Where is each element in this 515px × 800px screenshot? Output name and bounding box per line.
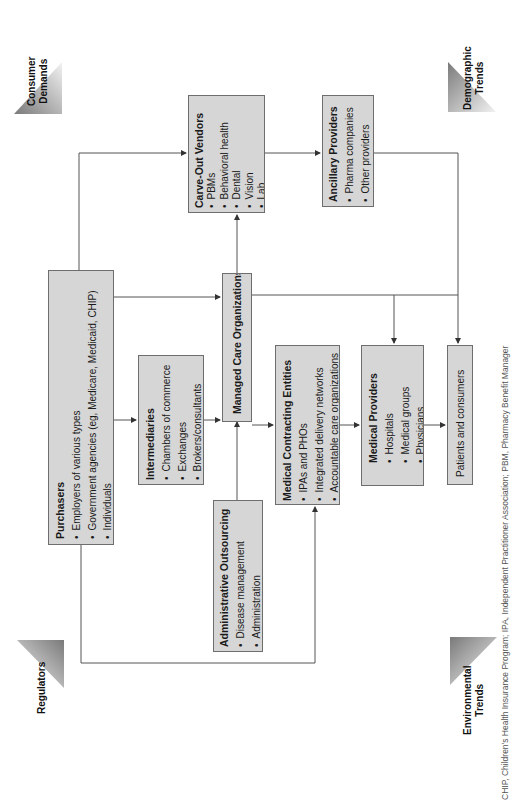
list-item: Other providers: [358, 106, 374, 202]
carve-out-title: Carve-Out Vendors: [193, 113, 206, 208]
list-item: Behavioral health: [219, 113, 232, 208]
list-item: Medical groups: [398, 373, 414, 463]
intermediaries-title: Intermediaries: [144, 365, 157, 480]
list-item: Hospitals: [382, 373, 398, 463]
list-item: PBMs: [206, 113, 219, 208]
purchasers-box: Purchasers Employers of various types Go…: [48, 270, 114, 545]
list-item: Lab: [256, 113, 265, 208]
carve-out-vendors-box: Carve-Out Vendors PBMs Behavioral health…: [188, 95, 265, 213]
admin-outsourcing-title: Administrative Outsourcing: [218, 509, 231, 647]
patients-and-consumers-box: Patients and consumers: [447, 345, 473, 485]
list-item: Administration: [249, 509, 264, 647]
list-item: Dental: [231, 113, 244, 208]
list-item: Brokers/consultants: [190, 365, 204, 480]
regulators-label: Regulators: [36, 662, 48, 714]
ancillary-title: Ancillary Providers: [327, 106, 340, 202]
list-item: Integrated delivery networks: [312, 353, 328, 501]
ancillary-providers-box: Ancillary Providers Pharma companies Oth…: [322, 95, 374, 207]
list-item: Exchanges: [175, 365, 191, 480]
list-item: Physicians: [413, 373, 424, 463]
medical-contracting-title: Medical Contracting Entities: [281, 353, 294, 501]
list-item: Accountable care organizations: [327, 353, 340, 501]
intermediaries-box: Intermediaries Chambers of commerce Exch…: [138, 355, 204, 485]
list-item: Pharma companies: [342, 106, 358, 202]
list-item: Individuals: [100, 290, 114, 539]
list-item: IPAs and PHOs: [296, 353, 312, 501]
list-item: Employers of various types: [69, 290, 85, 539]
demographic-trends-label: DemographicTrends: [462, 46, 486, 110]
purchasers-title: Purchasers: [54, 290, 67, 539]
list-item: Chambers of commerce: [159, 365, 175, 480]
list-item: Vision: [244, 113, 257, 208]
list-item: Disease management: [233, 509, 249, 647]
consumer-demands-label: ConsumerDemands: [26, 57, 50, 106]
managed-care-organizations-box: Managed Care Organizations: [222, 273, 252, 422]
environmental-trends-label: EnvironmentalTrends: [462, 666, 486, 735]
list-item: Government agencies (eg, Medicare, Medic…: [85, 290, 101, 539]
figure-caption: CHIP, Children's Health Insurance Progra…: [500, 346, 510, 800]
administrative-outsourcing-box: Administrative Outsourcing Disease manag…: [213, 500, 263, 652]
medical-providers-box: Medical Providers Hospitals Medical grou…: [361, 345, 424, 486]
patients-label: Patients and consumers: [455, 370, 466, 477]
medical-providers-title: Medical Providers: [367, 373, 380, 463]
medical-contracting-entities-box: Medical Contracting Entities IPAs and PH…: [275, 345, 340, 505]
managed-care-title: Managed Care Organizations: [231, 273, 244, 414]
